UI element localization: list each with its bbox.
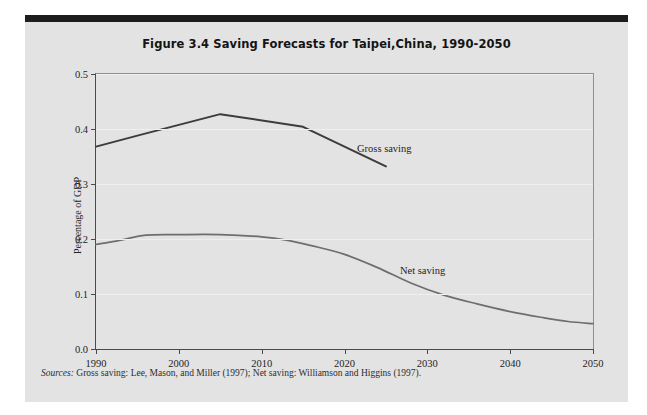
y-tick-label: 0.1 (48, 289, 88, 300)
gridline (96, 129, 593, 130)
source-text: Gross saving: Lee, Mason, and Miller (19… (74, 368, 421, 378)
gridline (96, 239, 593, 240)
y-tick-label: 0.2 (48, 234, 88, 245)
y-tick-label: 0.0 (48, 344, 88, 355)
series-annotation-net-saving: Net saving (400, 265, 445, 276)
series-line-net-saving (96, 234, 593, 323)
plot-wrapper: Percentage of GDP 0.00.10.20.30.40.51990… (25, 15, 628, 402)
x-tick-mark (427, 349, 428, 354)
y-tick-mark (91, 294, 96, 295)
figure-panel: Figure 3.4 Saving Forecasts for Taipei,C… (25, 15, 628, 402)
x-tick-mark (593, 349, 594, 354)
source-note: Sources: Gross saving: Lee, Mason, and M… (41, 368, 421, 378)
y-tick-mark (91, 239, 96, 240)
gridline (96, 294, 593, 295)
source-prefix: Sources: (41, 368, 74, 378)
y-tick-mark (91, 184, 96, 185)
x-tick-mark (179, 349, 180, 354)
x-tick-label: 2050 (568, 358, 618, 369)
y-tick-label: 0.4 (48, 124, 88, 135)
x-tick-mark (510, 349, 511, 354)
gridline (96, 184, 593, 185)
x-tick-mark (345, 349, 346, 354)
series-annotation-gross-saving: Gross saving (357, 143, 412, 154)
x-tick-mark (262, 349, 263, 354)
plot-area: 0.00.10.20.30.40.51990200020102020203020… (95, 73, 594, 350)
y-tick-label: 0.5 (48, 69, 88, 80)
chart-svg (96, 74, 593, 349)
y-tick-mark (91, 74, 96, 75)
x-tick-label: 2040 (485, 358, 535, 369)
x-tick-mark (96, 349, 97, 354)
gridline (96, 74, 593, 75)
y-tick-label: 0.3 (48, 179, 88, 190)
series-line-gross-saving (96, 114, 386, 166)
y-tick-mark (91, 129, 96, 130)
